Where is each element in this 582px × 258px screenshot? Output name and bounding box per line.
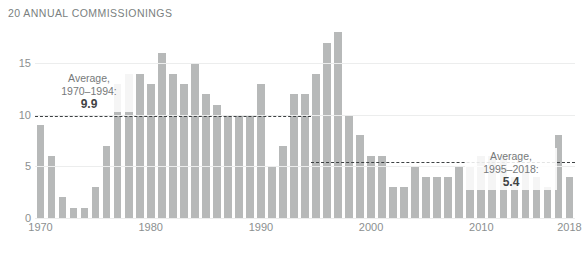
bar-1990	[257, 84, 265, 218]
x-axis-tick-label: 1970	[28, 221, 52, 233]
bar-1983	[180, 84, 188, 218]
annotation-label-line2: 1970–1994:	[61, 85, 116, 97]
y-axis-tick-label: 15	[5, 57, 31, 69]
annotation-value: 9.9	[43, 97, 135, 111]
x-axis-tick-label: 2000	[359, 221, 383, 233]
chart-title: 20 ANNUAL COMMISSIONINGS	[8, 7, 172, 19]
annotation-label-line1: Average,	[68, 72, 110, 84]
bar-1985	[202, 94, 210, 218]
plot-area: Average,1970–1994:9.9Average,1995–2018:5…	[35, 22, 575, 218]
bar-2007	[444, 177, 452, 218]
bar-2000	[367, 156, 375, 218]
bar-1999	[356, 135, 364, 218]
x-axis-tick-label: 2010	[469, 221, 493, 233]
bar-1973	[70, 208, 78, 218]
bar-2005	[422, 177, 430, 218]
x-axis-tick-label: 2018	[557, 221, 581, 233]
y-axis-tick-label: 5	[5, 160, 31, 172]
bar-2003	[400, 187, 408, 218]
bar-1981	[158, 53, 166, 218]
bar-1995	[312, 74, 320, 218]
bar-2004	[411, 166, 419, 218]
bar-2006	[433, 177, 441, 218]
bar-1976	[103, 146, 111, 218]
bar-2002	[389, 187, 397, 218]
bar-1970	[37, 125, 45, 218]
annotation-value: 5.4	[465, 175, 557, 189]
x-axis-tick-label: 1990	[249, 221, 273, 233]
bar-1974	[81, 208, 89, 218]
bar-2018	[566, 177, 574, 218]
annotation-label-line1: Average,	[490, 150, 532, 162]
x-axis-tick-label: 1980	[138, 221, 162, 233]
y-axis: 051015	[0, 22, 31, 218]
y-axis-tick-label: 10	[5, 109, 31, 121]
bar-1991	[268, 166, 276, 218]
bar-1980	[147, 84, 155, 218]
annotation-label-line2: 1995–2018:	[483, 163, 538, 175]
bar-1993	[290, 94, 298, 218]
bar-1971	[48, 156, 56, 218]
bar-2016	[544, 187, 552, 218]
y-axis-tick-label: 0	[5, 212, 31, 224]
bar-1986	[213, 105, 221, 218]
bar-2001	[378, 156, 386, 218]
bar-1979	[136, 74, 144, 218]
bar-2008	[455, 166, 463, 218]
gridline-15	[35, 63, 575, 64]
annual-commissionings-chart: 20 ANNUAL COMMISSIONINGS 051015 Average,…	[0, 0, 582, 258]
annotation-avg-1995-2018: Average,1995–2018:5.4	[465, 150, 557, 189]
annotation-avg-1970-1994: Average,1970–1994:9.9	[43, 72, 135, 111]
bar-1994	[301, 94, 309, 218]
bar-1997	[334, 32, 342, 218]
bar-1984	[191, 63, 199, 218]
bar-1996	[323, 43, 331, 218]
average-line-avg-1970-1994	[35, 116, 311, 117]
bar-1972	[59, 197, 67, 218]
x-axis: 197019801990200020102018	[35, 221, 575, 241]
bar-1992	[279, 146, 287, 218]
gridline-0	[35, 218, 575, 219]
bar-1982	[169, 74, 177, 218]
bar-1975	[92, 187, 100, 218]
